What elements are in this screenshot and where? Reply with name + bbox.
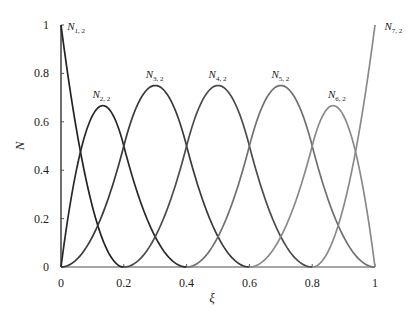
x-tick-label: 0.8 (305, 276, 320, 290)
bspline-basis-chart: 00.20.40.60.8100.20.40.60.81 N1, 2N2, 2N… (0, 0, 415, 327)
label-n4-2: N4, 2 (208, 68, 227, 83)
curve-labels: N1, 2N2, 2N3, 2N4, 2N5, 2N6, 2N7, 2 (66, 20, 402, 103)
curve-n3-2 (61, 86, 249, 268)
y-tick-label: 0.6 (34, 115, 49, 129)
label-n6-2: N6, 2 (327, 88, 346, 103)
y-tick-label: 0.2 (34, 212, 49, 226)
label-n7-2: N7, 2 (383, 20, 402, 35)
label-n5-2: N5, 2 (270, 68, 289, 83)
label-n3-2: N3, 2 (145, 68, 164, 83)
x-tick-label: 0.6 (242, 276, 257, 290)
y-tick-label: 0.4 (34, 163, 49, 177)
curve-n6-2 (249, 106, 375, 267)
x-tick-label: 0.4 (179, 276, 194, 290)
y-tick-label: 1 (43, 18, 49, 32)
curve-n4-2 (124, 86, 312, 268)
x-tick-label: 0.2 (116, 276, 131, 290)
label-n1-2: N1, 2 (66, 20, 85, 35)
y-axis-title: N (12, 140, 27, 151)
x-axis-title: ξ (209, 290, 215, 305)
curve-n7-2 (312, 25, 375, 267)
basis-curves (61, 25, 375, 267)
x-tick-label: 1 (372, 276, 378, 290)
y-tick-label: 0 (43, 260, 49, 274)
curve-n1-2 (61, 25, 124, 267)
curve-n5-2 (187, 86, 375, 268)
x-tick-label: 0 (58, 276, 64, 290)
label-n2-2: N2, 2 (91, 88, 110, 103)
y-tick-label: 0.8 (34, 66, 49, 80)
curve-n2-2 (61, 106, 187, 267)
